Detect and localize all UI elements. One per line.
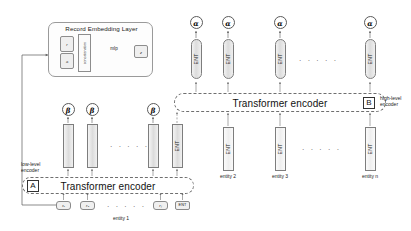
high-level-output-pill-label-3: ENT <box>277 53 283 64</box>
high-level-caption-line1: high-level <box>380 95 401 101</box>
entity-caption-2: entity 2 <box>207 173 250 179</box>
high-level-output-pill-3: ENT <box>275 39 286 79</box>
record-input-a-box: a <box>60 53 74 69</box>
concatenation-box: concatenation <box>78 34 91 72</box>
beta-symbol-2: β <box>90 106 95 113</box>
record-output-z-label: z <box>140 49 142 54</box>
token-label-r1: r₁ <box>62 203 65 208</box>
low-level-output-ent-bar: ENT <box>172 124 183 168</box>
beta-symbol-3: β <box>151 106 156 113</box>
record-output-z-box: z <box>134 45 148 58</box>
record-input-r-box: r <box>60 36 74 52</box>
low-level-encoder-caption: low-level encoder <box>21 161 40 174</box>
record-embedding-layer-panel: Record Embedding Layer r a concatenation… <box>48 22 153 77</box>
low-level-encoder-tag: A <box>27 180 39 192</box>
high-level-output-pill-2: ENT <box>223 39 234 79</box>
high-level-output-pill-label-2: ENT <box>225 53 231 64</box>
low-level-output-ent-label: ENT <box>174 140 180 151</box>
beta-symbol-1: β <box>66 106 71 113</box>
alpha-circle-3: α <box>274 16 287 29</box>
token-label-r2: r₂ <box>86 203 89 208</box>
alpha-symbol-2: α <box>225 19 230 26</box>
high-level-output-ellipsis: · · · · · <box>299 57 338 64</box>
entity-caption-n: entity n <box>349 173 392 179</box>
mlp-label: mlp <box>103 46 125 51</box>
token-label-ent: ENT <box>178 203 186 207</box>
low-level-output-bar-1 <box>63 124 74 168</box>
alpha-circle-2: α <box>222 16 235 29</box>
high-level-output-pill-4: ENT <box>365 39 376 79</box>
high-level-encoder-tag: B <box>363 97 375 109</box>
high-level-input-bar-label-n: ENT <box>367 143 373 154</box>
high-level-input-bar-2: ENT <box>223 127 234 171</box>
record-input-a-label: a <box>66 59 68 64</box>
low-level-caption-line2: encoder <box>21 167 39 173</box>
low-level-encoder-tag-label: A <box>30 182 35 190</box>
alpha-symbol-3: α <box>277 19 282 26</box>
token-ellipsis: · · · · · <box>107 203 146 210</box>
token-label-rj: rⱼ <box>159 203 161 208</box>
entity-caption-3: entity 3 <box>259 173 302 179</box>
beta-circle-3: β <box>147 103 160 116</box>
high-level-input-bar-label-3: ENT <box>277 143 283 154</box>
alpha-symbol-4: α <box>367 19 372 26</box>
token-box-ent: ENT <box>175 201 190 210</box>
alpha-symbol-1: α <box>193 19 198 26</box>
entity-caption-1: entity 1 <box>96 215 146 221</box>
token-box-r2: r₂ <box>80 201 95 210</box>
diagram-canvas: Record Embedding Layer r a concatenation… <box>0 0 411 231</box>
token-box-r1: r₁ <box>56 201 71 210</box>
high-level-encoder-tag-label: B <box>366 99 371 107</box>
high-level-input-bar-n: ENT <box>365 127 376 171</box>
high-level-encoder-band: Transformer encoder <box>174 93 386 112</box>
alpha-circle-1: α <box>190 16 203 29</box>
high-level-input-bar-label-2: ENT <box>225 143 231 154</box>
high-level-encoder-label: Transformer encoder <box>175 97 385 108</box>
high-level-output-pill-label-1: ENT <box>193 53 199 64</box>
high-level-input-bar-3: ENT <box>275 127 286 171</box>
alpha-circle-4: α <box>364 16 377 29</box>
token-box-rj: rⱼ <box>153 201 168 210</box>
low-level-encoder-band: Transformer encoder <box>22 177 194 194</box>
record-embedding-layer-title: Record Embedding Layer <box>49 25 154 32</box>
high-level-encoder-caption: high-level encoder <box>380 95 401 108</box>
low-level-output-bar-2 <box>87 124 98 168</box>
high-level-output-pill-1: ENT <box>191 39 202 79</box>
low-level-encoder-label: Transformer encoder <box>23 180 193 191</box>
high-level-output-pill-label-4: ENT <box>367 53 373 64</box>
low-level-caption-line1: low-level <box>21 161 40 167</box>
high-level-input-ellipsis: · · · · · <box>302 146 341 153</box>
low-level-output-ellipsis: · · · · · <box>110 143 149 150</box>
beta-circle-2: β <box>86 103 99 116</box>
high-level-caption-line2: encoder <box>380 101 398 107</box>
concatenation-label: concatenation <box>83 42 87 64</box>
beta-circle-1: β <box>62 103 75 116</box>
record-input-r-label: r <box>66 42 67 47</box>
